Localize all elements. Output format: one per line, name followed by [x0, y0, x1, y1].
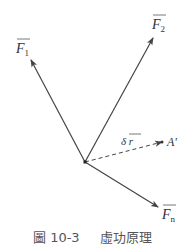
- vector-fn: [85, 162, 158, 207]
- label-a-prime: A': [166, 135, 177, 149]
- svg-text:δ r: δ r: [121, 135, 134, 147]
- vector-f2: [85, 38, 153, 162]
- origin-point: [84, 161, 87, 164]
- svg-text:F1: F1: [15, 41, 29, 58]
- label-delta-r: δ r: [121, 134, 141, 147]
- figure-caption-title: 虛功原理: [100, 230, 152, 245]
- svg-text:F2: F2: [151, 17, 165, 34]
- label-fn: Fn: [161, 205, 176, 224]
- virtual-work-diagram: F1 F2 Fn δ r A' 圖 10-3 虛功原理: [0, 0, 190, 249]
- figure-caption-number: 圖 10-3: [33, 230, 80, 245]
- svg-text:Fn: Fn: [161, 207, 176, 224]
- label-f2: F2: [151, 15, 166, 34]
- label-f1: F1: [15, 39, 30, 58]
- point-a-prime: [161, 141, 164, 144]
- vector-f1: [31, 60, 85, 162]
